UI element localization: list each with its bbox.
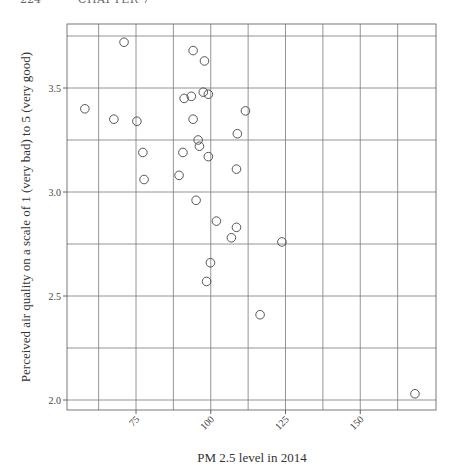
data-point <box>212 217 221 226</box>
data-point <box>202 277 211 286</box>
data-point <box>195 142 204 151</box>
data-point <box>232 223 241 232</box>
data-point <box>133 117 142 126</box>
x-tick-label: 75 <box>127 414 142 429</box>
grid-lines <box>67 24 436 410</box>
data-point <box>175 171 184 180</box>
data-point <box>204 152 213 161</box>
y-tick-label: 2.0 <box>49 395 62 406</box>
y-axis-label: Perceived air quality on a scale of 1 (v… <box>18 52 33 382</box>
x-tick-label: 150 <box>347 414 365 432</box>
plot-frame <box>67 24 436 410</box>
y-tick-label: 2.5 <box>49 291 62 302</box>
data-point <box>189 46 198 55</box>
data-point <box>256 310 265 319</box>
data-point <box>411 389 420 398</box>
data-point <box>227 233 236 242</box>
x-tick-label: 100 <box>198 414 216 432</box>
y-axis-ticks: 2.02.53.03.5 <box>49 83 68 406</box>
x-axis-label: PM 2.5 level in 2014 <box>197 450 307 465</box>
data-point <box>199 88 208 97</box>
y-tick-label: 3.5 <box>49 83 62 94</box>
x-tick-label: 125 <box>273 414 291 432</box>
data-points <box>81 38 420 398</box>
data-point <box>204 90 213 99</box>
data-point <box>81 105 90 114</box>
data-point <box>120 38 129 47</box>
data-point <box>110 115 119 124</box>
y-tick-label: 3.0 <box>49 187 62 198</box>
data-point <box>179 148 188 157</box>
scatter-chart: 75100125150 2.02.53.03.5 PM 2.5 level in… <box>0 0 455 471</box>
data-point <box>233 129 242 138</box>
data-point <box>192 196 201 205</box>
data-point <box>140 175 149 184</box>
data-point <box>139 148 148 157</box>
data-point <box>189 115 198 124</box>
data-point <box>232 165 241 174</box>
data-point <box>278 238 287 247</box>
data-point <box>200 57 209 66</box>
x-axis-ticks: 75100125150 <box>127 410 366 432</box>
